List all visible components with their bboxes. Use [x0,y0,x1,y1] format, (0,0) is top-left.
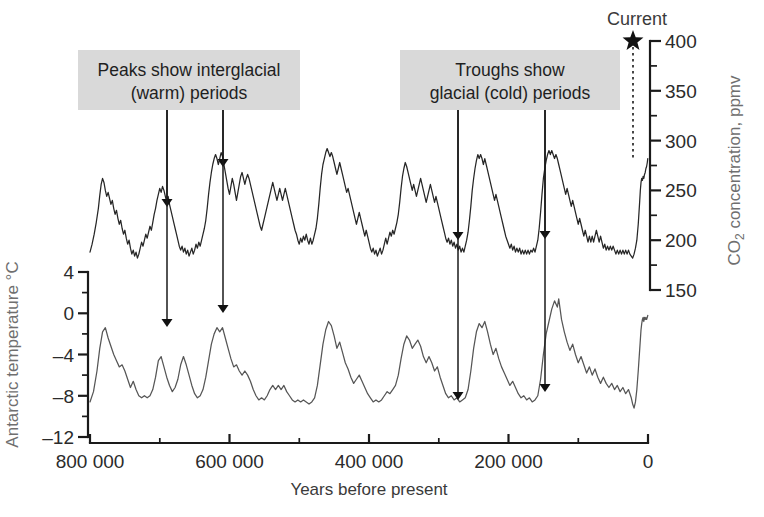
right-tick-label: 400 [665,31,697,52]
left-tick-label: –4 [53,345,75,366]
co2-concentration-curve [90,149,648,259]
right-tick-label: 200 [665,230,697,251]
annotation-text-line1: Troughs show [455,60,565,80]
left-tick-label: –8 [53,386,74,407]
annotations: Peaks show interglacial(warm) periodsTro… [78,50,620,400]
annotation-text-line1: Peaks show interglacial [98,60,281,80]
x-axis: 800 000600 000400 000200 0000Years befor… [56,434,654,499]
x-tick-label: 200 000 [474,451,543,472]
annotation-arrowhead-icon [540,384,551,392]
x-tick-label: 600 000 [195,451,264,472]
left-tick-label: 0 [63,303,74,324]
current-star-icon [623,30,644,50]
climate-chart-figure: 800 000600 000400 000200 0000Years befor… [0,0,764,517]
right-tick-label: 150 [665,280,697,301]
annotation-arrowhead-icon [218,305,229,313]
right-tick-label: 250 [665,180,697,201]
annotation-text-line2: (warm) periods [131,83,248,103]
left-tick-label: 4 [63,262,74,283]
current-marker-label: Current [607,9,667,29]
annotation-text-line2: glacial (cold) periods [430,83,591,103]
x-tick-label: 800 000 [56,451,125,472]
antarctic-temperature-curve [90,299,648,408]
data-curves [90,149,648,409]
right-tick-label: 300 [665,131,697,152]
x-tick-label: 0 [643,451,654,472]
vostok-ice-core-chart: 800 000600 000400 000200 0000Years befor… [0,0,764,517]
right-tick-label: 350 [665,81,697,102]
annotation-arrowhead-icon [453,392,464,400]
right-co2-axis: 400350300250200150CO2 concentration, ppm… [650,31,747,301]
x-tick-label: 400 000 [335,451,404,472]
annotation-arrowhead-icon [162,319,173,327]
right-axis-title: CO2 concentration, ppmv [725,75,747,265]
left-axis-title: Antarctic temperature °C [3,261,22,447]
left-temperature-axis: 40–4–8–12Antarctic temperature °C [3,261,88,448]
x-axis-title: Years before present [290,480,447,499]
left-tick-label: –12 [42,427,74,448]
